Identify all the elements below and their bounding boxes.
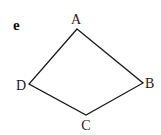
vertex-label-d: D: [16, 78, 26, 93]
vertex-label-a: A: [71, 12, 82, 27]
quadrilateral-abcd: [29, 29, 143, 115]
part-label: e: [13, 17, 20, 33]
vertex-label-b: B: [145, 76, 154, 91]
vertex-label-c: C: [81, 118, 90, 133]
quadrilateral-diagram: e A B C D: [0, 0, 161, 135]
